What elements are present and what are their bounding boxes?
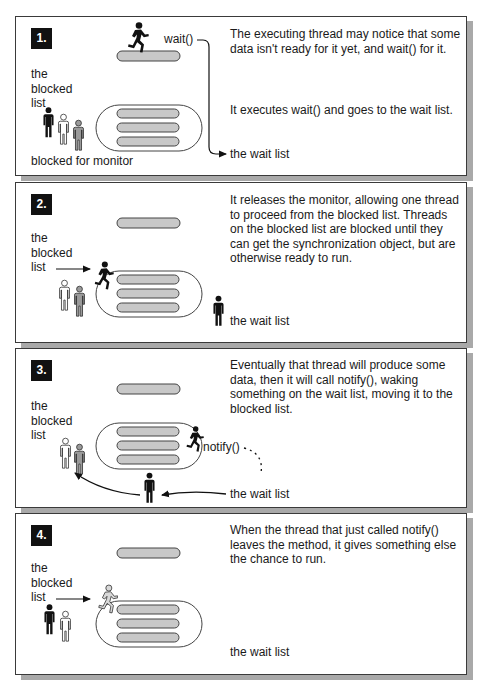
person-white-icon (59, 280, 69, 310)
person-black-icon (44, 604, 54, 634)
method-bar (117, 137, 179, 146)
person-black-icon (43, 107, 53, 137)
notify-call-label: notify() (203, 440, 240, 455)
wait-list-label: the wait list (230, 147, 289, 162)
step-description: Eventually that thread will produce some… (230, 358, 462, 416)
person-white-icon (60, 611, 70, 641)
method-bar (117, 619, 179, 628)
person-gray-icon (74, 444, 84, 474)
panel-step-1: 1. the blocked list blocked for monitor … (15, 16, 467, 176)
method-bar (117, 123, 179, 132)
blocked-list-label: the blocked list (31, 399, 72, 443)
panel-step-2: 2. the blocked list the wait list It rel… (15, 182, 467, 343)
method-bar (117, 441, 179, 450)
step-description: It releases the monitor, allowing one th… (230, 193, 462, 266)
method-bar (117, 275, 179, 284)
runner-icon (128, 22, 149, 52)
person-gray-icon (73, 120, 83, 150)
move-to-blocked-arrow (75, 473, 140, 495)
wait-list-label: the wait list (230, 645, 289, 660)
person-white-icon (58, 114, 68, 144)
blocked-list-label: the blocked list (31, 67, 72, 111)
method-bar (117, 303, 179, 312)
step-description: The executing thread may notice that som… (230, 27, 462, 56)
blocked-for-monitor-label: blocked for monitor (31, 154, 133, 169)
monitor-bar (117, 548, 180, 558)
method-bar (117, 289, 179, 298)
panel-step-4: 4. the blocked list the wait list When t… (15, 513, 467, 675)
blocked-list-label: the blocked list (31, 231, 72, 275)
panel-step-3: 3. the blocked list notify() the wait li… (15, 348, 467, 508)
wake-arrow (162, 492, 226, 495)
wait-call-label: wait() (164, 32, 193, 47)
person-gray-icon (74, 286, 84, 316)
notify-dotted-path (244, 448, 261, 473)
monitor-bar (117, 384, 180, 394)
monitor-bar (117, 51, 180, 61)
method-bar (117, 605, 179, 614)
method-bar (117, 427, 179, 436)
method-bar (117, 455, 179, 464)
step-description: When the thread that just called notify(… (230, 523, 462, 567)
blocked-list-label: the blocked list (31, 561, 72, 605)
step-description: It executes wait() and goes to the wait … (230, 103, 462, 118)
wait-list-label: the wait list (230, 314, 289, 329)
monitor-bar (117, 218, 180, 228)
wait-list-label: the wait list (230, 487, 289, 502)
person-black-icon (144, 473, 154, 503)
method-bar (117, 109, 179, 118)
person-black-icon (213, 296, 223, 326)
wait-arrow (197, 40, 226, 154)
method-bar (117, 633, 179, 642)
